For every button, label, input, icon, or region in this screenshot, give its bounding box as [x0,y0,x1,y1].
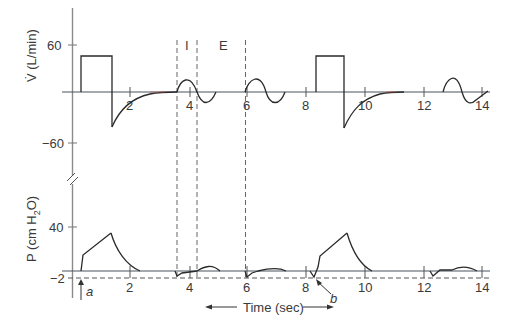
pressure-tick-40: 40 [49,220,63,235]
time-axis-label: Time (sec) [243,300,304,315]
axis-break-icon [67,173,78,185]
flow-time-tick-8: 8 [302,98,309,113]
pressure-time-tick-14: 14 [475,280,489,295]
pressure-tick-neg2: −2 [50,271,65,286]
flow-time-tick-14: 14 [475,98,489,113]
flow-axis-label: V̇ (L/min) [24,29,39,82]
phase-label-expiration: E [219,38,228,53]
ventilator-waveform-diagram: 60 −60 V̇ (L/min) P (cm H2O) 40 −2 2 4 6… [0,0,511,328]
flow-time-tick-4: 4 [186,98,193,113]
arrow-left-icon [205,305,212,310]
phase-dashed-lines [177,40,246,278]
pressure-time-tick-6: 6 [243,280,250,295]
pressure-time-tick-2: 2 [126,280,133,295]
flow-tick-neg60: −60 [42,136,64,151]
svg-text:b: b [330,291,337,306]
pressure-axis-label: P (cm H2O) [24,196,42,262]
annotation-b: b [316,279,337,306]
flow-time-tick-12: 12 [417,98,431,113]
pressure-time-tick-4: 4 [186,280,193,295]
pressure-time-tick-8: 8 [302,280,309,295]
svg-text:a: a [86,284,93,299]
flow-tick-60: 60 [47,38,61,53]
annotation-a: a [78,279,93,300]
flow-time-tick-6: 6 [243,98,250,113]
pressure-time-tick-12: 12 [417,280,431,295]
pressure-time-tick-10: 10 [358,280,372,295]
time-axis-label-group: Time (sec) [205,300,334,315]
phase-label-inspiration: I [185,38,189,53]
